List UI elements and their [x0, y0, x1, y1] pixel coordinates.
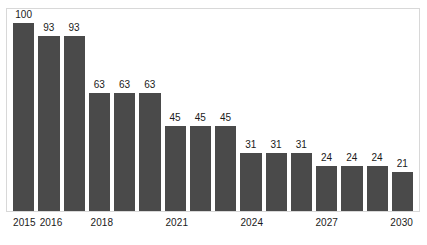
bar-rect [114, 93, 135, 211]
x-tick-label [216, 214, 236, 236]
bar-group: 45 [190, 9, 211, 211]
x-tick-label [141, 214, 161, 236]
bar-group: 93 [64, 9, 85, 211]
bar-group: 63 [139, 9, 160, 211]
bar-group: 63 [89, 9, 110, 211]
x-tick-label: 2030 [390, 214, 413, 236]
x-tick-label [192, 214, 212, 236]
bar-rect [240, 153, 261, 211]
bar-rect [38, 36, 59, 211]
x-tick-label: 2018 [90, 214, 113, 236]
bar-group: 24 [367, 9, 388, 211]
bar-value-label: 93 [68, 22, 79, 34]
bar-rect [190, 126, 211, 211]
bar-value-label: 45 [169, 112, 180, 124]
bar-rect [64, 36, 85, 211]
bar-group: 31 [291, 9, 312, 211]
bar-value-label: 31 [296, 139, 307, 151]
bar-value-label: 45 [195, 112, 206, 124]
x-tick-label [267, 214, 287, 236]
bar-group: 31 [240, 9, 261, 211]
bar-value-label: 24 [346, 152, 357, 164]
bar-group: 21 [392, 9, 413, 211]
bar-rect [139, 93, 160, 211]
bar-value-label: 45 [220, 112, 231, 124]
bar-rect [316, 166, 337, 211]
bar-value-label: 31 [245, 139, 256, 151]
bar-rect [341, 166, 362, 211]
x-tick-label [66, 214, 86, 236]
x-tick-label: 2016 [40, 214, 63, 236]
bar-group: 93 [38, 9, 59, 211]
bar-group: 31 [266, 9, 287, 211]
bar-rect [215, 126, 236, 211]
bar-rect [291, 153, 312, 211]
bar-value-label: 24 [321, 152, 332, 164]
x-tick-label: 2027 [315, 214, 338, 236]
bar-value-label: 100 [15, 9, 32, 21]
bar-rect [367, 166, 388, 211]
bar-value-label: 63 [94, 79, 105, 91]
x-tick-label [342, 214, 362, 236]
bar-rect [392, 172, 413, 211]
bar-rect [266, 153, 287, 211]
bar-rect [89, 93, 110, 211]
bar-value-label: 63 [144, 79, 155, 91]
x-axis-tick-labels: 2015 2016 2018 2021 2024 2027 2030 [7, 214, 419, 236]
bar-group: 24 [316, 9, 337, 211]
bar-value-label: 21 [397, 158, 408, 170]
bar-value-label: 63 [119, 79, 130, 91]
bar-group: 45 [215, 9, 236, 211]
x-tick-label: 2024 [240, 214, 263, 236]
bar-value-label: 93 [43, 22, 54, 34]
x-tick-label [291, 214, 311, 236]
bar-group: 100 [13, 9, 34, 211]
bar-group: 63 [114, 9, 135, 211]
bar-chart: 100 93 93 63 63 63 45 45 [0, 0, 427, 245]
x-tick-label: 2021 [165, 214, 188, 236]
bars-container: 100 93 93 63 63 63 45 45 [7, 9, 419, 211]
x-tick-label [366, 214, 386, 236]
x-tick-label [117, 214, 137, 236]
bar-value-label: 31 [270, 139, 281, 151]
bar-rect [165, 126, 186, 211]
x-tick-label: 2015 [13, 214, 36, 236]
bar-group: 45 [165, 9, 186, 211]
bar-rect [13, 23, 34, 211]
bar-value-label: 24 [371, 152, 382, 164]
bar-group: 24 [341, 9, 362, 211]
